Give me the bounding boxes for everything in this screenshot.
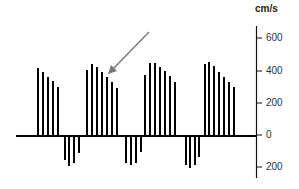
velocity-bars [38, 62, 234, 168]
y-tick-label: 0 [266, 130, 272, 140]
annotation-arrow [108, 32, 149, 74]
y-tick-label: 400 [266, 66, 283, 76]
y-tick-label: 200 [266, 162, 283, 172]
doppler-velocity-chart [0, 0, 299, 189]
y-axis-unit-label: cm/s [255, 3, 278, 14]
y-tick-label: 600 [266, 33, 283, 43]
y-tick-label: 200 [266, 98, 283, 108]
